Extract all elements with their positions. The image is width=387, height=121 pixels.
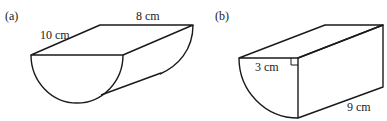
- figure-a-front-semicircle: [31, 55, 123, 103]
- diagram-canvas: (a) 10 cm 8 cm (b) 3 cm 9 cm: [0, 0, 387, 121]
- right-angle-marker: [291, 58, 298, 65]
- figure-b: (b) 3 cm 9 cm: [215, 9, 383, 118]
- figure-b-radius-label: 3 cm: [255, 60, 279, 74]
- figure-b-length-label: 9 cm: [347, 100, 371, 114]
- figure-a-label: (a): [5, 9, 18, 23]
- figure-a-bottom-edge: [101, 73, 161, 95]
- figure-b-label: (b): [215, 9, 229, 23]
- figure-a-width-label: 8 cm: [136, 9, 160, 23]
- figure-a: (a) 10 cm 8 cm: [5, 9, 193, 103]
